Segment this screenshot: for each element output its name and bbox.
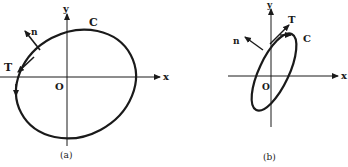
figure-canvas: x y O C T n (a) x y O C T n (b) <box>0 0 348 167</box>
y-axis-label: y <box>266 0 273 10</box>
curve-label: C <box>303 33 311 44</box>
panel-b: x y O C T n (b) <box>228 0 348 162</box>
panel-a: x y O C T n (a) <box>0 3 170 160</box>
x-axis-label: x <box>163 71 170 82</box>
normal-label: n <box>31 27 38 37</box>
x-axis-label: x <box>341 70 348 81</box>
curve-label: C <box>89 16 98 29</box>
origin-label: O <box>262 82 270 92</box>
caption-a: (a) <box>60 150 72 160</box>
y-axis-label: y <box>62 3 70 14</box>
normal-vector <box>245 37 263 50</box>
tangent-label: T <box>288 14 296 25</box>
caption-b: (b) <box>263 152 276 162</box>
origin-label: O <box>55 81 64 92</box>
normal-label: n <box>233 36 240 46</box>
curve-c <box>0 9 155 159</box>
tangent-label: T <box>4 61 13 74</box>
